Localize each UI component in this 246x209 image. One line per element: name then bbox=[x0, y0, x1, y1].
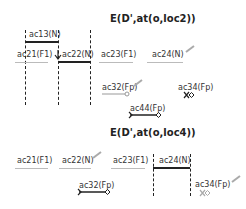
action-label-ac13: ac13(N) bbox=[29, 30, 61, 39]
cross-diamond-icon bbox=[200, 190, 210, 196]
dashed-divider bbox=[58, 30, 59, 105]
action-label-ac21: ac21(F1) bbox=[17, 156, 52, 165]
link-bar-ac32 bbox=[78, 189, 110, 197]
underline bbox=[15, 168, 48, 169]
arrow-up-right-icon bbox=[93, 152, 101, 158]
link-bar-ac44 bbox=[129, 112, 161, 120]
dashed-divider bbox=[153, 154, 154, 196]
action-label-ac34: ac34(Fp) bbox=[178, 83, 213, 92]
action-label-ac34: ac34(Fp) bbox=[195, 180, 230, 189]
diagram-title-loc2: E(D',at(o,loc2)) bbox=[110, 13, 196, 24]
action-bar-ac13 bbox=[25, 41, 58, 43]
underline bbox=[111, 168, 145, 169]
action-label-ac24: ac24(N) bbox=[152, 50, 184, 59]
arrow-down-icon bbox=[55, 50, 61, 60]
action-label-ac24: ac24(N) bbox=[159, 156, 191, 165]
arrow-up-right-icon bbox=[186, 46, 194, 52]
arrow-up-right-icon bbox=[232, 176, 240, 182]
underline bbox=[99, 62, 133, 63]
underline bbox=[147, 62, 183, 63]
cross-diamond-icon bbox=[184, 92, 194, 98]
dashed-divider bbox=[90, 30, 91, 105]
action-bar-ac24 bbox=[153, 167, 190, 169]
underline bbox=[59, 168, 91, 169]
action-bar-ac22 bbox=[58, 61, 90, 63]
link-bar-ac32 bbox=[102, 91, 130, 97]
underline bbox=[15, 62, 48, 63]
action-label-ac21: ac21(F1) bbox=[17, 50, 52, 59]
arrow-up-right-icon bbox=[134, 80, 142, 86]
action-label-ac22: ac22(N) bbox=[62, 156, 94, 165]
action-label-ac23: ac23(F1) bbox=[101, 50, 136, 59]
action-label-ac22: ac22(N) bbox=[62, 50, 94, 59]
action-label-ac23: ac23(F1) bbox=[113, 156, 148, 165]
diagram-title-loc4: E(D',at(o,loc4)) bbox=[110, 127, 196, 138]
